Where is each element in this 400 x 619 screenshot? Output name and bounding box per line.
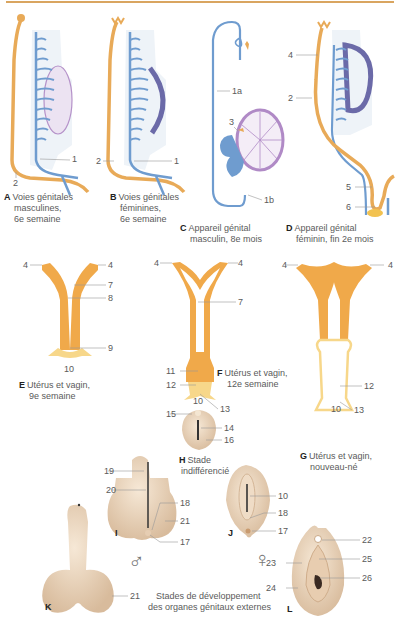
label-e-4-right: 4 — [108, 261, 113, 270]
label-e-7: 7 — [108, 281, 113, 290]
caption-b: BVoies génitales féminines, 6e semaine — [110, 192, 179, 225]
caption-h-letter: H — [179, 455, 186, 465]
label-e-4-left: 4 — [23, 261, 28, 270]
label-i-18: 18 — [180, 499, 190, 508]
caption-g-letter: G — [300, 451, 307, 461]
caption-a-letter: A — [4, 192, 11, 202]
panel-b-drawing — [103, 18, 184, 195]
label-i-21: 21 — [180, 517, 190, 526]
label-j-18: 18 — [278, 509, 288, 518]
panel-c-drawing — [213, 22, 283, 206]
caption-k-letter: K — [45, 602, 52, 612]
label-h-15: 15 — [166, 410, 176, 419]
male-symbol-icon: ♂ — [128, 551, 145, 573]
caption-f-letter: F — [217, 368, 223, 378]
label-f-13: 13 — [220, 405, 230, 414]
panel-h-drawing — [170, 410, 222, 450]
caption-l: L — [287, 604, 295, 615]
label-b-2: 2 — [96, 157, 101, 166]
label-l-26: 26 — [362, 574, 372, 583]
label-i-19: 19 — [104, 467, 114, 476]
label-d-2: 2 — [288, 94, 293, 103]
label-e-9: 9 — [108, 344, 113, 353]
caption-i-letter: I — [115, 528, 118, 538]
label-f-4-left: 4 — [154, 259, 159, 268]
female-symbol-icon: ♀ — [254, 549, 271, 571]
panel-l-drawing — [286, 526, 360, 617]
caption-d-letter: D — [286, 223, 293, 233]
caption-a: AVoies génitales masculines, 6e semaine — [4, 192, 73, 225]
label-b-1: 1 — [174, 157, 179, 166]
caption-h: HStade indifférencié — [179, 455, 229, 477]
caption-b-letter: B — [110, 192, 117, 202]
label-g-13: 13 — [354, 406, 364, 415]
label-g-10: 10 — [331, 405, 341, 414]
panel-e-drawing — [30, 263, 106, 358]
label-e-8: 8 — [108, 294, 113, 303]
caption-e-letter: E — [19, 380, 25, 390]
caption-c: CAppareil génital masculin, 8e mois — [180, 223, 262, 245]
label-i-17: 17 — [180, 538, 190, 547]
caption-i: I — [115, 528, 120, 539]
label-e-10: 10 — [64, 365, 74, 374]
label-f-12: 12 — [166, 381, 176, 390]
label-k-21: 21 — [130, 592, 140, 601]
caption-k: K — [45, 602, 54, 613]
label-f-7: 7 — [238, 298, 243, 307]
label-h-14: 14 — [224, 424, 234, 433]
label-a-2: 2 — [13, 179, 18, 188]
label-c-1b: 1b — [264, 196, 274, 205]
label-l-22: 22 — [362, 536, 372, 545]
caption-l-letter: L — [287, 604, 293, 614]
caption-g: GUtérus et vagin, nouveau-né — [300, 451, 372, 473]
label-d-4: 4 — [288, 51, 293, 60]
label-h-16: 16 — [224, 436, 234, 445]
label-f-11: 11 — [166, 367, 175, 376]
label-c-1a: 1a — [232, 87, 242, 96]
label-c-3: 3 — [229, 118, 234, 127]
label-j-10: 10 — [278, 492, 288, 501]
caption-f: FUtérus et vagin, 12e semaine — [217, 368, 288, 390]
label-g-4-right: 4 — [388, 261, 393, 270]
caption-e: EUtérus et vagin, 9e semaine — [19, 380, 90, 402]
label-f-4-right: 4 — [238, 259, 243, 268]
panel-d-drawing — [296, 22, 394, 217]
illustration — [0, 0, 400, 619]
label-d-5: 5 — [346, 183, 351, 192]
label-j-17: 17 — [278, 527, 288, 536]
caption-d: DAppareil génital féminin, fin 2e mois — [286, 223, 374, 245]
panel-j-drawing — [226, 465, 276, 538]
panel-a-drawing — [12, 14, 88, 195]
caption-c-letter: C — [180, 223, 187, 233]
label-g-4-left: 4 — [282, 261, 287, 270]
label-l-25: 25 — [362, 555, 372, 564]
label-a-1: 1 — [72, 155, 77, 164]
label-d-6: 6 — [346, 203, 351, 212]
label-g-12: 12 — [364, 382, 374, 391]
label-i-20: 20 — [106, 486, 116, 495]
caption-j-letter: J — [228, 528, 233, 538]
label-f-10: 10 — [193, 397, 203, 406]
external-organs-caption: Stades de développement des organes géni… — [148, 591, 271, 613]
caption-j: J — [228, 528, 235, 539]
